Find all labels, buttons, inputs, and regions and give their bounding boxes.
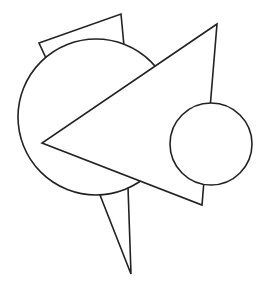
small-circle bbox=[170, 103, 252, 185]
lower-spike bbox=[100, 187, 131, 274]
geometric-drawing bbox=[0, 0, 266, 296]
